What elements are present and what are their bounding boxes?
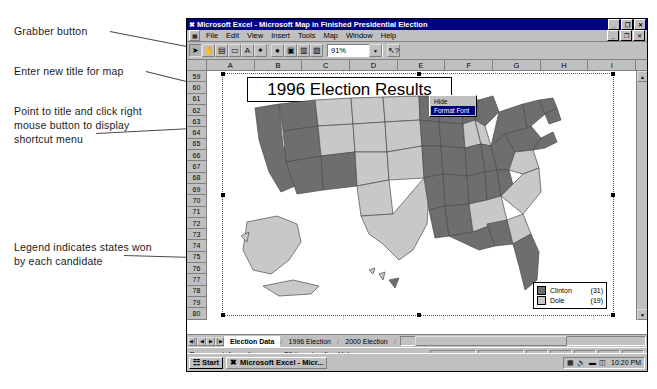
legend-count-dole: (19) [584, 297, 603, 304]
column-header-f[interactable]: F [445, 60, 493, 70]
row-header-75[interactable]: 75 [187, 252, 206, 263]
column-header-c[interactable]: C [302, 60, 350, 70]
menu-item-map[interactable]: Map [319, 31, 342, 40]
menu-item-help[interactable]: Help [377, 31, 400, 40]
microsoft-map-object[interactable]: 1996 Election Results [222, 73, 614, 316]
last-sheet-icon[interactable]: │▶ [215, 337, 224, 346]
prev-sheet-icon[interactable]: ◀ [197, 337, 206, 346]
annotation-legend: Legend indicates states won by each cand… [14, 240, 152, 268]
row-header-70[interactable]: 70 [187, 195, 206, 206]
column-header-h[interactable]: H [541, 60, 589, 70]
row-header-78[interactable]: 78 [187, 286, 206, 297]
select-all-corner[interactable] [187, 60, 207, 70]
row-header-60[interactable]: 60 [187, 82, 206, 93]
row-header-76[interactable]: 76 [187, 263, 206, 274]
selection-handle[interactable] [221, 193, 225, 197]
column-header-a[interactable]: A [207, 60, 255, 70]
select-arrow-tool-icon[interactable]: ➤ [189, 44, 202, 57]
row-header-67[interactable]: 67 [187, 161, 206, 172]
row-header-62[interactable]: 62 [187, 105, 206, 116]
horizontal-scroll-thumb[interactable] [415, 336, 567, 346]
row-header-79[interactable]: 79 [187, 297, 206, 308]
chevron-down-icon[interactable]: ▼ [369, 44, 382, 57]
selection-handle[interactable] [611, 193, 615, 197]
sheet-cells-area[interactable]: 1996 Election Results [207, 71, 647, 320]
selection-handle[interactable] [221, 313, 225, 317]
column-header-g[interactable]: G [493, 60, 541, 70]
vertical-scrollbar[interactable]: ▲ ▼ [636, 71, 647, 320]
taskbar: ☷ Start ✖ Microsoft Excel - Micr... ▦ 🔊 … [187, 353, 647, 371]
legend-label-clinton: Clinton [550, 287, 584, 294]
selection-handle[interactable] [611, 313, 615, 317]
sheet-tab-2000-election[interactable]: 2000 Election [339, 336, 393, 347]
scroll-up-icon[interactable]: ▲ [637, 71, 647, 82]
volume-icon[interactable]: 🔊 [577, 359, 586, 366]
context-menu-item-hide[interactable]: Hide [431, 97, 475, 106]
map-labeler-tool-icon[interactable]: ▤ [215, 44, 228, 57]
row-header-64[interactable]: 64 [187, 127, 206, 138]
row-header-72[interactable]: 72 [187, 218, 206, 229]
text-label-tool-icon[interactable]: ▭ [228, 44, 241, 57]
restore-icon[interactable]: ❐ [620, 30, 632, 41]
sheet-tab-1996-election[interactable]: 1996 Election [283, 336, 337, 347]
context-menu-item-format-font[interactable]: Format Font [431, 106, 475, 115]
custom-pin-tool-icon[interactable]: ✦ [254, 44, 267, 57]
selection-handle[interactable] [417, 72, 421, 76]
network-icon[interactable]: ▦ [567, 359, 574, 366]
row-header-63[interactable]: 63 [187, 116, 206, 127]
selection-handle[interactable] [417, 313, 421, 317]
menu-item-view[interactable]: View [243, 31, 267, 40]
minimize-icon[interactable]: _ [607, 30, 619, 41]
scroll-down-icon[interactable]: ▼ [637, 309, 647, 320]
row-header-65[interactable]: 65 [187, 139, 206, 150]
row-header-68[interactable]: 68 [187, 173, 206, 184]
grabber-hand-tool-icon[interactable]: ✋ [202, 44, 215, 57]
taskbar-item-excel[interactable]: ✖ Microsoft Excel - Micr... [226, 357, 327, 369]
legend-swatch-clinton [537, 286, 546, 295]
row-header-73[interactable]: 73 [187, 229, 206, 240]
row-header-71[interactable]: 71 [187, 207, 206, 218]
menu-item-insert[interactable]: Insert [267, 31, 294, 40]
title-context-menu[interactable]: Hide Format Font [429, 95, 477, 117]
help-pointer-button-icon[interactable]: ↖? [387, 44, 400, 57]
map-refresh-tool-icon[interactable]: ● [271, 44, 284, 57]
row-header-59[interactable]: 59 [187, 71, 206, 82]
selection-handle[interactable] [221, 72, 225, 76]
column-header-e[interactable]: E [398, 60, 446, 70]
menu-bar: ▦ File Edit View Insert Tools Map Window… [187, 30, 647, 42]
first-sheet-icon[interactable]: ◀│ [188, 337, 197, 346]
sheet-tab-election-data[interactable]: Election Data [224, 336, 280, 347]
add-feature-tool-icon[interactable]: ▧ [310, 44, 323, 57]
data-map-control-tool-icon[interactable]: ▥ [297, 44, 310, 57]
tray-clock[interactable]: 10:20 PM [611, 359, 641, 366]
menu-item-tools[interactable]: Tools [294, 31, 320, 40]
row-header-61[interactable]: 61 [187, 94, 206, 105]
map-document-icon[interactable]: ▦ [189, 30, 200, 41]
column-header-d[interactable]: D [350, 60, 398, 70]
add-text-tool-icon[interactable]: A [241, 44, 254, 57]
column-header-i[interactable]: I [588, 60, 636, 70]
column-header-b[interactable]: B [255, 60, 303, 70]
selection-handle[interactable] [611, 72, 615, 76]
horizontal-scrollbar[interactable] [400, 336, 646, 346]
row-header-69[interactable]: 69 [187, 184, 206, 195]
menu-item-edit[interactable]: Edit [222, 31, 243, 40]
show-hide-legend-tool-icon[interactable]: ▣ [284, 44, 297, 57]
display-icon[interactable]: ▬ [589, 359, 596, 366]
row-header-80[interactable]: 80 [187, 308, 206, 319]
minimize-icon[interactable]: _ [608, 19, 620, 30]
screenshot-root: Grabber button Enter new title for map P… [0, 0, 657, 389]
menu-item-window[interactable]: Window [342, 31, 377, 40]
close-icon[interactable]: ✕ [634, 19, 646, 30]
zoom-combobox[interactable]: 91% ▼ [327, 44, 383, 57]
map-legend[interactable]: Clinton (31) Dole (19) [533, 282, 607, 309]
next-sheet-icon[interactable]: ▶ [206, 337, 215, 346]
row-header-74[interactable]: 74 [187, 240, 206, 251]
start-button[interactable]: ☷ Start [189, 357, 223, 369]
close-icon[interactable]: ✕ [633, 30, 645, 41]
row-header-77[interactable]: 77 [187, 274, 206, 285]
row-header-66[interactable]: 66 [187, 150, 206, 161]
restore-icon[interactable]: ❐ [621, 19, 633, 30]
battery-icon[interactable]: ◫ [599, 359, 606, 366]
menu-item-file[interactable]: File [202, 31, 222, 40]
